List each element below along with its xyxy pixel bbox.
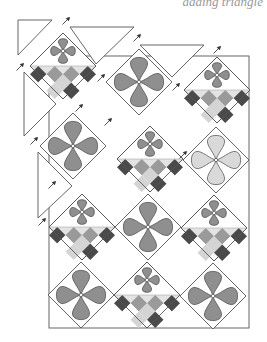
arrow-icon [74,103,83,112]
flower-icon [56,270,105,319]
quilt-block-f [183,127,249,193]
arrow-icon [29,136,38,145]
quilt-block-k [114,262,180,328]
quilt-block-i [181,195,247,261]
flower-icon [114,57,163,106]
quilt-block-g [49,194,115,260]
flower-icon [123,202,172,251]
arrow-icon [37,217,46,226]
quilt-block-h [115,194,181,260]
arrow-icon [171,82,180,91]
flower-icon [191,135,240,184]
arrow-icon [103,117,112,126]
quilt-block-c [184,57,250,123]
quilt-assembly-diagram [0,0,267,342]
quilt-block-e [117,126,183,192]
arrow-icon [96,73,105,82]
quilt-block-j [48,262,114,328]
flower-icon [188,271,237,320]
arrow-icon [15,62,24,71]
arrow-icon [132,33,141,42]
arrow-icon [61,16,70,25]
arrow-icon [212,45,221,54]
quilt-block-l [180,263,246,329]
flower-icon [48,121,97,170]
